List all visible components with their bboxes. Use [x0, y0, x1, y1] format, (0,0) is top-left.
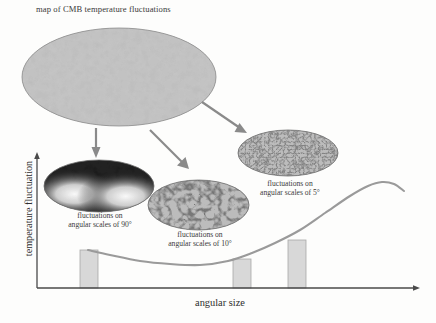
map-5-degrees — [236, 128, 342, 180]
caption-5-degrees: fluctuations on angular scales of 5° — [240, 180, 340, 198]
caption-90-degrees: fluctuations on angular scales of 90° — [41, 212, 159, 230]
x-axis-label: angular size — [150, 297, 290, 308]
map-cmb-full-sky — [20, 26, 220, 130]
caption-5-line2: angular scales of 5° — [240, 189, 340, 198]
map-10-degrees — [146, 178, 252, 234]
caption-10-line2: angular scales of 10° — [146, 240, 254, 249]
sky-maps-layer — [0, 0, 436, 323]
arrow-to-5 — [202, 102, 247, 133]
arrow-to-90 — [92, 128, 101, 158]
y-axis-label: temperature fluctuation — [23, 139, 34, 279]
cmb-fluctuations-figure: map of CMB temperature fluctuations — [0, 0, 436, 323]
arrow-to-10 — [150, 130, 189, 169]
caption-90-line2: angular scales of 90° — [41, 221, 159, 230]
map-90-degrees — [42, 158, 158, 216]
caption-10-degrees: fluctuations on angular scales of 10° — [146, 231, 254, 249]
